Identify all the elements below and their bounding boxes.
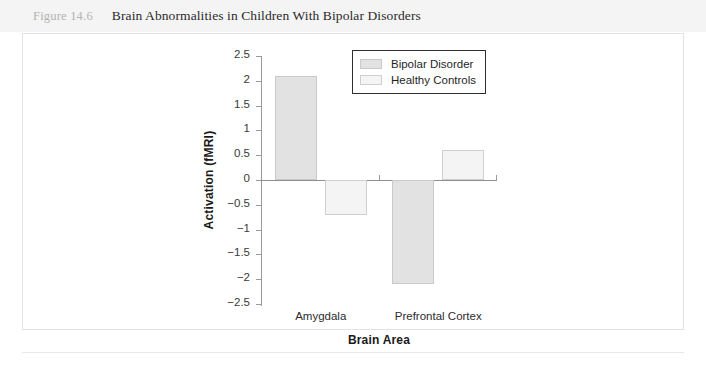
legend-item-label: Healthy Controls	[391, 74, 476, 86]
x-axis-tick-label: Prefrontal Cortex	[368, 310, 508, 322]
chart-legend: Bipolar DisorderHealthy Controls	[352, 50, 486, 94]
legend-item: Bipolar Disorder	[360, 56, 476, 72]
y-axis-tick	[256, 81, 261, 82]
legend-item: Healthy Controls	[360, 72, 476, 88]
baseline-end-tick	[496, 175, 497, 181]
category-separator-tick	[379, 175, 380, 181]
bar	[325, 180, 367, 215]
legend-swatch-icon	[360, 59, 382, 69]
y-axis-tick	[256, 180, 261, 181]
y-axis-tick	[256, 130, 261, 131]
legend-swatch-icon	[360, 75, 382, 85]
bar-chart: 2.521.510.50−0.5−1−1.5−2−2.5 Activation …	[0, 0, 706, 375]
y-axis-tick	[256, 106, 261, 107]
y-axis-tick	[256, 205, 261, 206]
x-axis-title: Brain Area	[261, 333, 497, 347]
y-axis-tick	[256, 155, 261, 156]
y-axis-title: Activation (fMRI)	[202, 60, 216, 300]
y-axis-spine	[261, 56, 262, 306]
y-axis-tick	[256, 56, 261, 57]
legend-item-label: Bipolar Disorder	[391, 58, 473, 70]
y-axis-tick	[256, 304, 261, 305]
y-axis-tick	[256, 230, 261, 231]
bar	[275, 76, 317, 180]
y-axis-title-container: Activation (fMRI)	[95, 0, 215, 375]
bar	[442, 150, 484, 180]
y-axis-tick	[256, 279, 261, 280]
bar	[392, 180, 434, 284]
y-axis-tick	[256, 254, 261, 255]
